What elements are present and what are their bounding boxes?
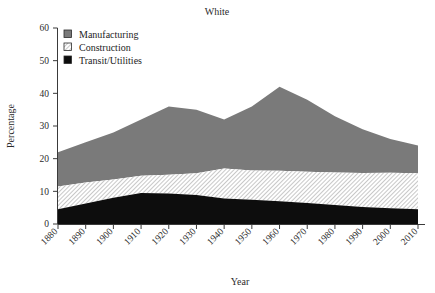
- legend-label-manufacturing: Manufacturing: [79, 29, 138, 40]
- y-tick-label: 20: [40, 154, 50, 164]
- y-tick-label: 30: [40, 121, 50, 131]
- y-tick-label: 10: [40, 187, 50, 197]
- y-tick-label: 40: [40, 89, 50, 99]
- chart-title: White: [205, 6, 230, 17]
- y-tick-label: 0: [44, 219, 49, 229]
- legend-label-transit-utilities: Transit/Utilities: [79, 55, 142, 66]
- y-axis-label: Percentage: [5, 104, 16, 148]
- legend-swatch-construction: [64, 43, 72, 51]
- y-tick-label: 60: [40, 23, 50, 33]
- x-axis-label: Year: [231, 276, 250, 287]
- legend-swatch-transit-utilities: [64, 56, 72, 64]
- y-tick-label: 50: [40, 56, 50, 66]
- chart-container: 0102030405060 Percentage 188018901900191…: [0, 0, 435, 293]
- stacked-area-chart: 0102030405060 Percentage 188018901900191…: [0, 0, 435, 293]
- legend-label-construction: Construction: [79, 42, 131, 53]
- legend-swatch-manufacturing: [64, 30, 72, 38]
